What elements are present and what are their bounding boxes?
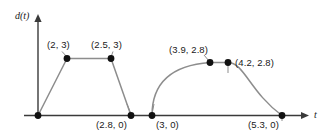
annotation-5p3-0: (5.3, 0) [248, 120, 279, 130]
datapoint-3-0 [149, 112, 156, 119]
datapoint-2-3 [64, 55, 71, 62]
datapoint-3p9-2p8 [207, 59, 214, 66]
annotation-2-3: (2, 3) [47, 40, 70, 50]
annotation-3p9-2p8: (3.9, 2.8) [169, 45, 208, 55]
x-axis-label: t [314, 110, 317, 120]
annotation-2p5-3: (2.5, 3) [91, 40, 122, 50]
datapoint-2p8-0 [128, 112, 135, 119]
graph-figure: d(t) t (2, 3) (2.5, 3) (2.8, 0) (3, 0) (… [0, 0, 328, 139]
datapoint-4p2-2p8 [225, 59, 232, 66]
y-axis-arrow-icon [34, 14, 41, 22]
trapezoid-pulse-path [38, 59, 131, 116]
datapoint-5p3-0 [279, 112, 286, 119]
datapoint-origin [35, 112, 42, 119]
annotation-2p8-0: (2.8, 0) [96, 120, 127, 130]
x-axis-arrow-icon [301, 112, 309, 119]
y-axis-label: d(t) [15, 11, 29, 21]
annotation-4p2-2p8: (4.2, 2.8) [235, 58, 274, 68]
datapoint-2p5-3 [108, 55, 115, 62]
curved-pulse-path [152, 63, 282, 116]
annotation-3-0: (3, 0) [156, 120, 179, 130]
